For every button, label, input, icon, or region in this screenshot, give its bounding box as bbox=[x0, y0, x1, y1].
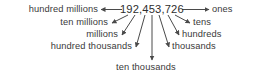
connector-millions bbox=[122, 15, 135, 35]
label-hundred-thousands: hundred thousands bbox=[24, 41, 132, 52]
connector-hundreds bbox=[168, 15, 179, 35]
connector-thousands bbox=[159, 15, 169, 47]
label-ten-thousands: ten thousands bbox=[116, 62, 176, 73]
label-hundreds: hundreds bbox=[182, 29, 222, 40]
connector-hundred-thousands bbox=[136, 15, 145, 47]
label-hundred-millions: hundred millions bbox=[8, 4, 98, 15]
label-ten-millions: ten millions bbox=[20, 17, 108, 28]
place-value-diagram: 192,453,726 hundred millions ten million… bbox=[0, 0, 255, 81]
label-thousands: thousands bbox=[172, 41, 216, 52]
label-tens: tens bbox=[193, 17, 211, 28]
label-millions: millions bbox=[30, 29, 118, 40]
connector-tens bbox=[175, 15, 190, 23]
connector-ten-millions bbox=[112, 15, 128, 23]
number-value: 192,453,726 bbox=[120, 3, 184, 15]
label-ones: ones bbox=[212, 4, 233, 15]
